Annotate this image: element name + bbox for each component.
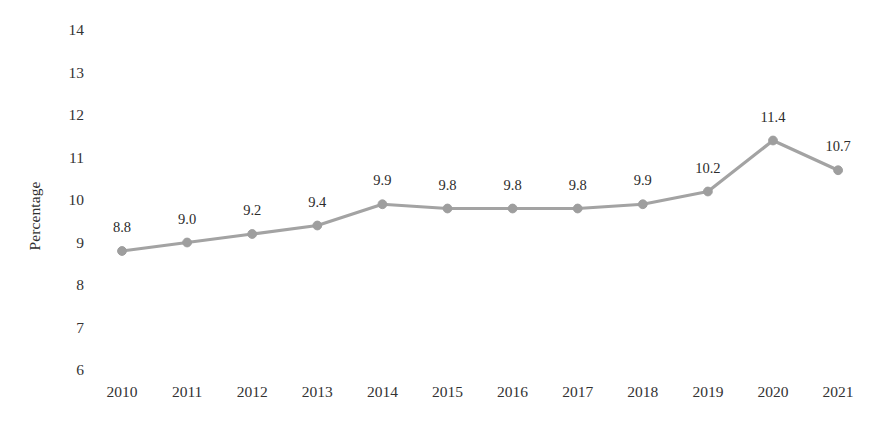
data-point-2011: [183, 238, 192, 247]
plot-area: [0, 0, 885, 432]
data-point-2014: [378, 200, 387, 209]
data-point-2021: [834, 166, 843, 175]
data-point-2015: [443, 204, 452, 213]
data-label-2020: 11.4: [761, 109, 786, 126]
data-label-2014: 9.9: [373, 172, 391, 189]
data-label-2012: 9.2: [243, 202, 261, 219]
data-label-2017: 9.8: [569, 177, 587, 194]
data-label-2021: 10.7: [825, 138, 850, 155]
data-point-2019: [704, 187, 713, 196]
data-point-2010: [118, 247, 127, 256]
data-point-2013: [313, 221, 322, 230]
data-label-2013: 9.4: [308, 194, 326, 211]
data-point-2020: [769, 136, 778, 145]
data-label-2019: 10.2: [695, 160, 720, 177]
data-label-2010: 8.8: [113, 219, 131, 236]
data-label-2016: 9.8: [504, 177, 522, 194]
data-label-2015: 9.8: [438, 177, 456, 194]
data-label-2018: 9.9: [634, 172, 652, 189]
data-point-2016: [508, 204, 517, 213]
line-chart: Percentage 67891011121314 20102011201220…: [0, 0, 885, 432]
data-point-2018: [638, 200, 647, 209]
data-point-2012: [248, 230, 257, 239]
series-line: [122, 141, 838, 252]
data-label-2011: 9.0: [178, 211, 196, 228]
data-point-2017: [573, 204, 582, 213]
